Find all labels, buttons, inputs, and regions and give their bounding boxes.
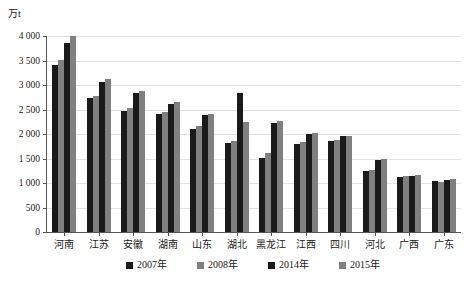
x-axis-tick-label: 安徽	[123, 239, 143, 250]
plot-area: 4 0003 5003 0002 5002 0001 5001 0005000 …	[46, 36, 461, 233]
bar[interactable]	[381, 159, 387, 232]
legend-label: 2014年	[279, 259, 309, 271]
y-axis-tick-label: 1 000	[19, 178, 40, 188]
y-axis-tick-label: 0	[35, 227, 40, 237]
x-axis-tick-mark	[168, 232, 169, 236]
y-axis-tick-label: 2 500	[19, 105, 40, 115]
bar-group: 河南	[47, 36, 82, 232]
y-axis-unit-label: 万t	[8, 8, 21, 20]
bar[interactable]	[415, 175, 421, 232]
bars-layer: 河南江苏安徽湖南山东湖北黑龙江江西四川河北广西广东	[47, 36, 461, 232]
legend-item[interactable]: 2007年	[126, 259, 167, 271]
bar-group: 山东	[185, 36, 220, 232]
bar[interactable]	[174, 102, 180, 232]
x-axis-tick-label: 黑龙江	[256, 239, 286, 250]
x-axis-tick-mark	[375, 232, 376, 236]
x-axis-tick-mark	[64, 232, 65, 236]
x-axis-tick-label: 广西	[399, 239, 419, 250]
bar[interactable]	[139, 91, 145, 232]
x-axis-tick-label: 江西	[296, 239, 316, 250]
bar-chart: 万t 4 0003 5003 0002 5002 0001 5001 00050…	[0, 0, 467, 281]
bar[interactable]	[346, 136, 352, 232]
x-axis-tick-label: 山东	[192, 239, 212, 250]
x-axis-tick-mark	[306, 232, 307, 236]
bar-group: 江西	[289, 36, 324, 232]
x-axis-tick-mark	[340, 232, 341, 236]
legend-swatch-icon	[197, 262, 204, 269]
legend-item[interactable]: 2014年	[268, 259, 309, 271]
x-axis-tick-mark	[409, 232, 410, 236]
x-axis-tick-label: 河南	[54, 239, 74, 250]
legend-swatch-icon	[268, 262, 275, 269]
legend-swatch-icon	[339, 262, 346, 269]
y-axis-tick-label: 2 000	[19, 129, 40, 139]
y-axis-tick-label: 4 000	[19, 31, 40, 41]
x-axis-tick-label: 四川	[330, 239, 350, 250]
legend-label: 2008年	[208, 259, 238, 271]
legend-item[interactable]: 2015年	[339, 259, 380, 271]
x-axis-tick-mark	[444, 232, 445, 236]
bar[interactable]	[70, 36, 76, 232]
x-axis-tick-mark	[133, 232, 134, 236]
bar-group: 河北	[358, 36, 393, 232]
bar[interactable]	[208, 114, 214, 232]
x-axis-tick-label: 湖北	[227, 239, 247, 250]
bar[interactable]	[243, 122, 249, 232]
bar-group: 广东	[427, 36, 462, 232]
bar[interactable]	[450, 179, 456, 232]
x-axis-tick-label: 江苏	[89, 239, 109, 250]
x-axis-tick-mark	[202, 232, 203, 236]
chart-legend: 2007年2008年2014年2015年	[46, 259, 460, 271]
y-axis-tick-mark	[43, 232, 47, 233]
y-axis-tick-label: 500	[26, 203, 40, 213]
bar-group: 安徽	[116, 36, 151, 232]
legend-label: 2015年	[350, 259, 380, 271]
bar-group: 四川	[323, 36, 358, 232]
y-axis-tick-label: 3 000	[19, 80, 40, 90]
x-axis-tick-label: 河北	[365, 239, 385, 250]
x-axis-tick-mark	[271, 232, 272, 236]
x-axis-tick-mark	[99, 232, 100, 236]
bar[interactable]	[312, 133, 318, 232]
bar-group: 江苏	[82, 36, 117, 232]
y-axis-tick-label: 3 500	[19, 56, 40, 66]
bar-group: 黑龙江	[254, 36, 289, 232]
bar-group: 湖北	[220, 36, 255, 232]
x-axis-tick-label: 广东	[434, 239, 454, 250]
legend-item[interactable]: 2008年	[197, 259, 238, 271]
bar[interactable]	[277, 121, 283, 232]
bar[interactable]	[105, 79, 111, 232]
bar-group: 广西	[392, 36, 427, 232]
legend-label: 2007年	[137, 259, 167, 271]
x-axis-tick-label: 湖南	[158, 239, 178, 250]
y-axis-tick-label: 1 500	[19, 154, 40, 164]
x-axis-tick-mark	[237, 232, 238, 236]
bar-group: 湖南	[151, 36, 186, 232]
legend-swatch-icon	[126, 262, 133, 269]
